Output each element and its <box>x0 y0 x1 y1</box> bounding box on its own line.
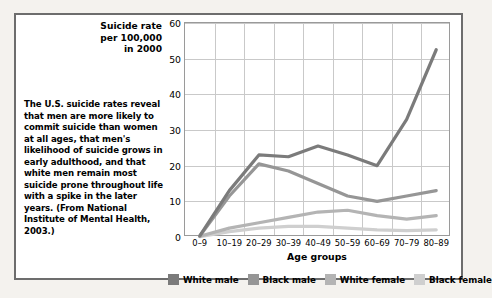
y-axis-tick-label: 50 <box>169 53 181 64</box>
x-axis-tick-label: 40–49 <box>305 238 331 248</box>
figure-caption: The U.S. suicide rates reveal that men a… <box>24 99 164 238</box>
x-axis-title: Age groups <box>184 251 450 262</box>
x-axis-tick-label: 20–29 <box>246 238 272 248</box>
legend-label: White male <box>183 275 239 285</box>
figure-frame: Suicide rate per 100,000 in 2000 The U.S… <box>14 13 463 280</box>
y-axis-tick-label: 10 <box>169 196 181 207</box>
legend-label: White female <box>340 275 405 285</box>
x-axis-tick-label: 60–69 <box>364 238 390 248</box>
legend-item: White female <box>325 274 405 285</box>
legend-label: Black female <box>429 275 492 285</box>
y-axis-tick-label: 30 <box>169 125 181 136</box>
legend-item: White male <box>168 274 239 285</box>
x-axis-tick-label: 70–79 <box>394 238 420 248</box>
legend-swatch <box>248 274 259 285</box>
x-axis-tick-label: 0–9 <box>192 238 207 248</box>
legend-swatch <box>414 274 425 285</box>
y-axis-tick-label: 40 <box>169 89 181 100</box>
legend-label: Black male <box>263 275 316 285</box>
chart-legend: White maleBlack maleWhite femaleBlack fe… <box>168 274 492 285</box>
x-axis-tick-label: 10–19 <box>217 238 243 248</box>
legend-item: Black male <box>248 274 316 285</box>
y-axis-title: Suicide rate per 100,000 in 2000 <box>76 21 162 56</box>
x-axis-tick-label: 30–39 <box>276 238 302 248</box>
x-axis-tick-label: 80–89 <box>423 238 449 248</box>
legend-swatch <box>325 274 336 285</box>
series-lines <box>185 23 451 237</box>
y-axis-tick-label: 20 <box>169 160 181 171</box>
legend-item: Black female <box>414 274 492 285</box>
series-line <box>200 50 436 236</box>
x-axis-tick-label: 50–59 <box>335 238 361 248</box>
legend-swatch <box>168 274 179 285</box>
y-axis-tick-label: 0 <box>175 232 181 243</box>
y-axis-tick-label: 60 <box>169 18 181 29</box>
plot-canvas: 01020304050600–910–1920–2930–3940–4950–5… <box>184 22 450 236</box>
plot-area: 01020304050600–910–1920–2930–3940–4950–5… <box>184 22 450 236</box>
